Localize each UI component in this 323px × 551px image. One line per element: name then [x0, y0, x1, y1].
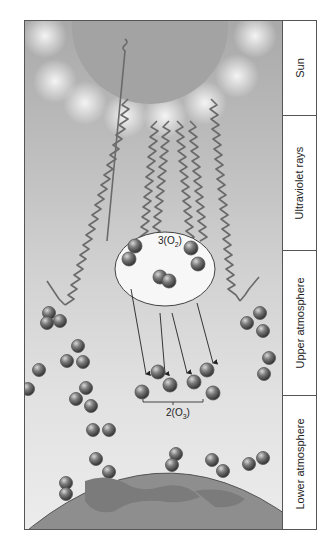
sun-icon [25, 21, 277, 138]
label-upper-atmosphere: Upper atmosphere [283, 251, 316, 396]
label-sun: Sun [283, 21, 316, 116]
ozone-formula: 2(O3) [166, 407, 190, 420]
oxygen-formula: 3(O2) [158, 235, 182, 248]
label-ultraviolet-rays: Ultraviolet rays [283, 116, 316, 251]
ozone-formation-illustration [25, 21, 283, 530]
atmosphere-diagram-panel: 3(O2) 2(O3) [24, 20, 283, 530]
layer-labels-column: Sun Ultraviolet rays Upper atmosphere Lo… [283, 20, 317, 530]
label-lower-atmosphere: Lower atmosphere [283, 396, 316, 531]
ozone-bracket [143, 399, 203, 405]
